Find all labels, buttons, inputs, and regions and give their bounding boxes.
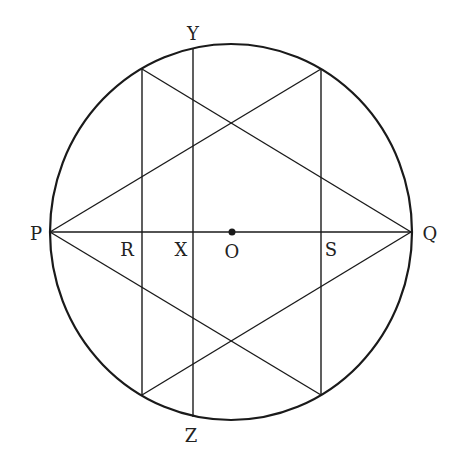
background <box>0 0 461 472</box>
geometry-diagram: P Q R X S Y Z O <box>0 0 461 472</box>
label-y: Y <box>186 23 200 44</box>
center-point-o <box>229 229 236 236</box>
label-r: R <box>120 239 134 260</box>
label-x: X <box>175 239 188 260</box>
label-p: P <box>30 223 42 244</box>
label-q: Q <box>423 223 438 244</box>
label-o: O <box>225 241 240 262</box>
label-z: Z <box>185 425 198 446</box>
label-s: S <box>325 239 337 260</box>
